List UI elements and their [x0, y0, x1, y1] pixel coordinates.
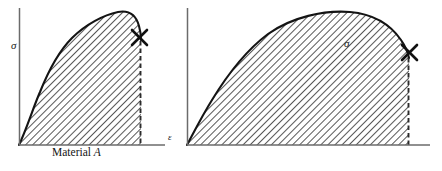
caption-letter-a: A	[94, 146, 101, 158]
figure-container: σ ε Material A	[0, 0, 442, 171]
caption-prefix-a: Material	[52, 146, 94, 158]
material-b-plot	[168, 0, 442, 171]
y-axis-label-sigma-a: σ	[11, 40, 16, 51]
chart-panel-material-b: σ ε Material B	[168, 0, 442, 171]
y-axis-label-sigma-b: σ	[344, 38, 349, 49]
panel-caption-material-a: Material A	[52, 147, 101, 159]
